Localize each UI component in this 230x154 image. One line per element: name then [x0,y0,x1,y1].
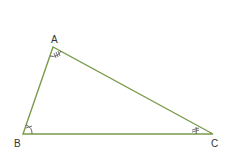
vertex-label-a: A [51,34,58,45]
vertex-label-c: C [211,138,218,149]
angle-c-mark [192,127,199,134]
triangle-abc [23,47,213,134]
vertex-label-b: B [14,138,21,149]
triangle-diagram: A B C [0,0,230,154]
angle-b-mark [26,125,32,134]
